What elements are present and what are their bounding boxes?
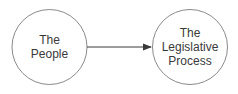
node-label-line: The	[20, 33, 80, 47]
node-label-line: Legislative	[155, 40, 225, 54]
node-label-people: The People	[20, 33, 80, 61]
node-label-line: The	[155, 26, 225, 40]
node-label-legislative: The Legislative Process	[155, 26, 225, 68]
node-label-line: Process	[155, 54, 225, 68]
node-label-line: People	[20, 47, 80, 61]
